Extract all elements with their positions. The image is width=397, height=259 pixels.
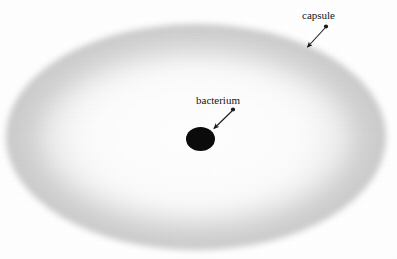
bacterium-leader	[214, 107, 235, 128]
label-bacterium: bacterium	[196, 94, 240, 106]
capsule-leader	[308, 24, 329, 47]
annotation-leader-lines	[0, 0, 397, 259]
figure-canvas: capsule bacterium	[0, 0, 397, 259]
label-capsule: capsule	[302, 9, 335, 21]
